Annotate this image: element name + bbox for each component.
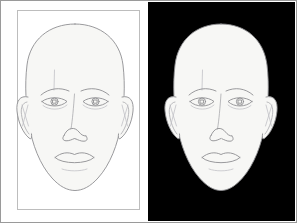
face-silhouette-fill xyxy=(26,24,125,191)
face-silhouette-fill xyxy=(174,24,269,191)
right-ear xyxy=(118,97,133,139)
black-background-panel xyxy=(148,2,295,221)
face-drawing-white xyxy=(2,2,148,221)
forehead-crease xyxy=(54,70,55,90)
white-background-panel xyxy=(2,2,148,221)
left-ear xyxy=(165,97,180,139)
figure-root: Same line-drawn face shown on a white fi… xyxy=(0,0,297,223)
right-ear xyxy=(262,97,277,139)
face-drawing-black xyxy=(148,2,295,221)
forehead-crease xyxy=(202,70,203,90)
panel-pair xyxy=(2,2,295,221)
left-ear xyxy=(17,97,32,139)
